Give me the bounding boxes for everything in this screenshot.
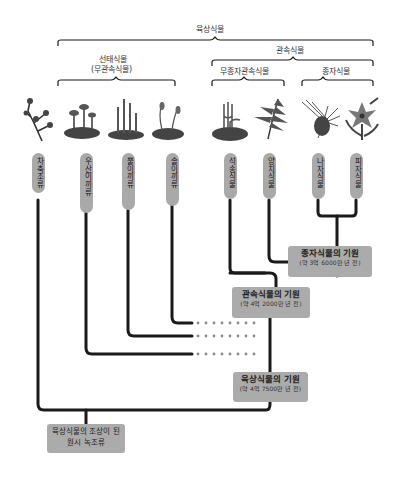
origin-time: (약 3억 6000만 년 전) — [288, 259, 372, 267]
taxon-label: 피자식물 — [350, 153, 363, 188]
hornwort-icon — [106, 93, 146, 141]
ancestral-green-algae: 육상식물의 조상이 된 원시 녹조류 — [47, 424, 125, 453]
ancestor-title: 육상식물의 조상이 된 — [47, 426, 125, 437]
group-label-seedless-vascular: 무종자관속식물 — [220, 67, 269, 77]
origin-time: (약 4억 7500만 년 전) — [233, 385, 308, 393]
moss-icon — [150, 96, 186, 140]
group-label-bryophytes: 선태식물 — [99, 55, 127, 65]
taxon-liverworts: 우산이끼류 — [80, 153, 93, 213]
group-label-land-plants: 육상식물 — [196, 25, 224, 35]
origin-land-plants: 육상식물의 기원 (약 4억 7500만 년 전) — [233, 372, 308, 402]
origin-vascular-plants: 관속식물의 기원 (약 4억 2000만 년 전) — [232, 287, 310, 318]
gymnosperm-icon — [298, 98, 342, 142]
origin-title: 종자식물의 기원 — [288, 248, 372, 259]
taxon-hornworts: 뿔이끼류 — [122, 153, 135, 210]
brace-bryophytes — [58, 77, 175, 86]
taxon-charophytes: 차축조류 — [32, 153, 45, 193]
lycophyte-icon — [210, 94, 250, 142]
liverwort-icon — [62, 100, 102, 140]
brace-seedless — [212, 77, 284, 86]
fern-icon — [250, 93, 292, 141]
brace-seed — [302, 77, 373, 86]
angiosperm-icon — [342, 96, 382, 142]
taxon-label: 우산이끼류 — [80, 153, 93, 196]
brace-vascular — [212, 57, 373, 66]
taxon-lycophytes: 석송식물 — [224, 153, 237, 199]
taxon-angiosperms: 피자식물 — [350, 153, 363, 199]
taxon-gymnosperms: 나자식물 — [312, 153, 325, 199]
origin-seed-plants: 종자식물의 기원 (약 3억 6000만 년 전) — [288, 246, 372, 277]
taxon-label: 나자식물 — [312, 153, 325, 188]
taxon-mosses: 솔이끼류 — [166, 153, 179, 206]
taxon-label: 뿔이끼류 — [122, 153, 135, 188]
group-label-bryophytes-alt: (무관속식물) — [91, 65, 132, 75]
taxon-label: 석송식물 — [224, 153, 237, 188]
ancestor-subtitle: 원시 녹조류 — [47, 437, 125, 448]
charophyte-icon — [22, 93, 56, 143]
taxon-ferns: 양치식물 — [263, 153, 276, 199]
taxon-label: 차축조류 — [32, 153, 45, 188]
origin-title: 관속식물의 기원 — [232, 289, 310, 300]
group-label-vascular: 관속식물 — [276, 46, 304, 56]
taxon-label: 양치식물 — [263, 153, 276, 188]
origin-time: (약 4억 2000만 년 전) — [232, 300, 310, 308]
brace-land-plants — [58, 37, 373, 46]
group-label-seed-plants: 종자식물 — [322, 67, 350, 77]
taxon-label: 솔이끼류 — [166, 153, 179, 188]
origin-title: 육상식물의 기원 — [233, 374, 308, 385]
